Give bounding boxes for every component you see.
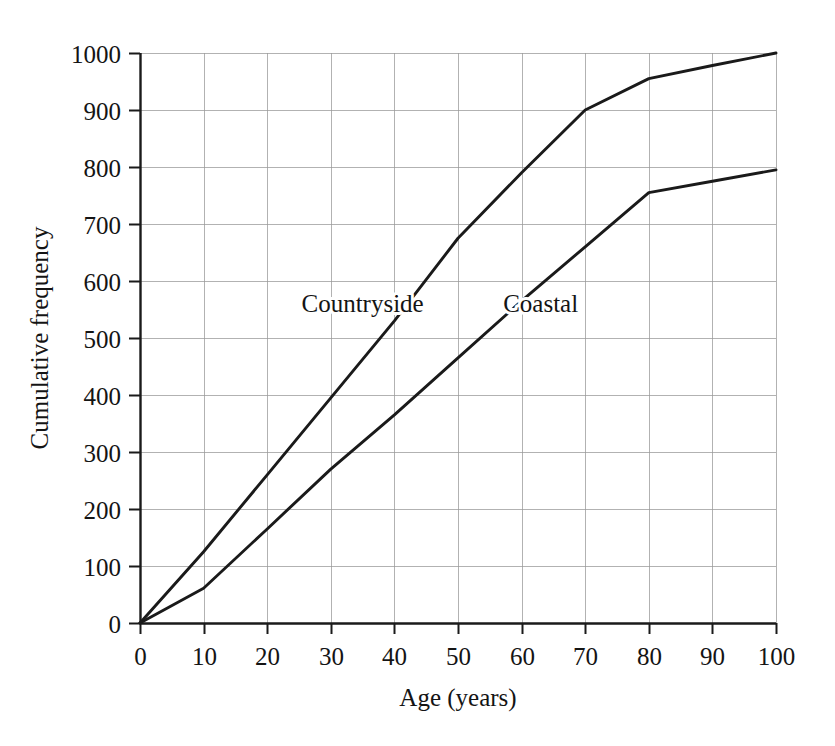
x-axis-tick-label: 30 bbox=[319, 643, 344, 670]
y-axis-tick-label: 1000 bbox=[71, 41, 121, 68]
y-axis-tick-label: 300 bbox=[84, 440, 122, 467]
y-axis-tick-label: 600 bbox=[84, 269, 122, 296]
x-axis-tick-labels: 0102030405060708090100 bbox=[134, 643, 795, 670]
x-axis-tick-label: 70 bbox=[573, 643, 598, 670]
y-axis-tick-label: 500 bbox=[84, 326, 122, 353]
x-axis-tick-label: 100 bbox=[758, 643, 796, 670]
series-annotation-labels: CountrysideCountrysideCoastalCoastal bbox=[301, 290, 578, 317]
y-axis-tick-label: 400 bbox=[84, 383, 122, 410]
y-axis-tick-label: 100 bbox=[84, 554, 122, 581]
y-axis-tick-label: 0 bbox=[109, 611, 122, 638]
y-axis-title: Cumulative frequency bbox=[26, 226, 53, 449]
x-axis-title: Age (years) bbox=[399, 684, 516, 712]
cumulative-frequency-chart: 01002003004005006007008009001000 0102030… bbox=[0, 0, 835, 746]
x-axis-tick-label: 90 bbox=[700, 643, 725, 670]
x-axis-tick-label: 10 bbox=[192, 643, 217, 670]
x-axis-tick-label: 60 bbox=[510, 643, 535, 670]
series-label-countryside: Countryside bbox=[301, 290, 423, 317]
y-axis-ticks bbox=[129, 54, 140, 624]
x-axis-tick-label: 80 bbox=[637, 643, 662, 670]
chart-canvas: 01002003004005006007008009001000 0102030… bbox=[0, 0, 835, 746]
y-axis-tick-label: 200 bbox=[84, 497, 122, 524]
x-axis-tick-label: 50 bbox=[446, 643, 471, 670]
x-axis-tick-label: 20 bbox=[255, 643, 280, 670]
x-axis-tick-label: 40 bbox=[382, 643, 407, 670]
y-axis-tick-label: 700 bbox=[84, 212, 122, 239]
y-axis-tick-labels: 01002003004005006007008009001000 bbox=[71, 41, 121, 638]
y-axis-tick-label: 900 bbox=[84, 98, 122, 125]
x-axis-tick-label: 0 bbox=[134, 643, 147, 670]
y-axis-tick-label: 800 bbox=[84, 155, 122, 182]
series-label-coastal: Coastal bbox=[503, 290, 578, 317]
